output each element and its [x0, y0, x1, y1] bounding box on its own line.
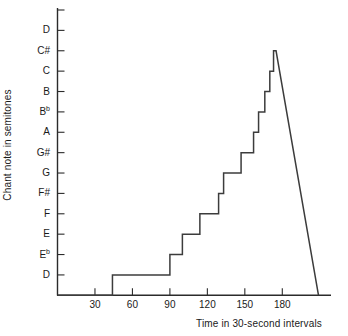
- y-tick-label: C#: [14, 46, 50, 56]
- y-tick-label: F: [14, 209, 50, 219]
- x-tick-marks: [95, 288, 282, 295]
- x-tick-label: 30: [75, 300, 115, 310]
- x-tick-label: 120: [187, 300, 227, 310]
- x-tick-label: 150: [225, 300, 265, 310]
- y-tick-label: G#: [14, 148, 50, 158]
- chart-container: Chant note in semitones DEbEFF#GG#ABbBCC…: [0, 0, 348, 336]
- x-tick-label: 90: [150, 300, 190, 310]
- y-tick-label: B: [14, 87, 50, 97]
- y-tick-label: E: [14, 229, 50, 239]
- x-axis-title: Time in 30-second intervals: [196, 318, 322, 329]
- x-tick-label: 180: [262, 300, 302, 310]
- y-tick-label: Eb: [14, 250, 50, 260]
- y-tick-label: C: [14, 66, 50, 76]
- x-tick-label: 60: [112, 300, 152, 310]
- y-tick-label: D: [14, 25, 50, 35]
- y-tick-label: Bb: [14, 107, 50, 117]
- chant-pitch-series-line: [58, 51, 319, 296]
- y-tick-label: D: [14, 270, 50, 280]
- chart-plot-svg: [0, 0, 348, 336]
- y-tick-marks: [58, 10, 65, 275]
- y-tick-label: A: [14, 127, 50, 137]
- y-tick-label: F#: [14, 188, 50, 198]
- y-tick-label: G: [14, 168, 50, 178]
- axes-group: [57, 8, 331, 296]
